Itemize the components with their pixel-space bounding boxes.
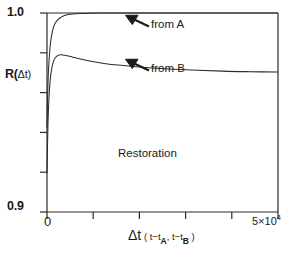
y-axis-title-arg: Δt) — [18, 68, 31, 80]
x-axis-title-delta-t: Δt — [128, 227, 141, 243]
chart-figure: 1.0 0.9 R(Δt) 0 5×104 Δt ( t−tA, t−tB ) … — [0, 0, 302, 263]
x-axis-max-exponent: 4 — [277, 213, 281, 222]
arrow-to-curve-b — [126, 59, 150, 70]
restoration-region-label: Restoration — [118, 148, 177, 160]
y-axis-tick-label-bottom: 0.9 — [7, 200, 24, 213]
x-axis-title: Δt ( t−tA, t−tB ) — [128, 228, 195, 245]
x-axis-title-mid: , t−t — [167, 231, 183, 242]
arrow-to-curve-a — [126, 15, 150, 26]
curve-a-annotation-label: from A — [151, 19, 184, 31]
curve-b-annotation-label: from B — [151, 63, 185, 75]
x-axis-tick-label-origin: 0 — [44, 215, 51, 228]
axis-frame — [47, 13, 278, 212]
y-axis-tick-label-top: 1.0 — [7, 6, 24, 19]
x-axis-title-paren-close: ) — [189, 231, 195, 242]
y-axis-title-r: R( — [5, 67, 18, 81]
x-axis-title-paren-open: ( t−t — [141, 231, 160, 242]
x-axis-max-mantissa: 5×10 — [252, 215, 277, 227]
y-axis-title: R(Δt) — [5, 68, 31, 81]
y-axis-ticks — [40, 13, 47, 212]
annotation-arrows — [126, 15, 150, 70]
x-axis-tick-label-max: 5×104 — [252, 214, 281, 227]
x-axis-ticks — [47, 212, 278, 219]
